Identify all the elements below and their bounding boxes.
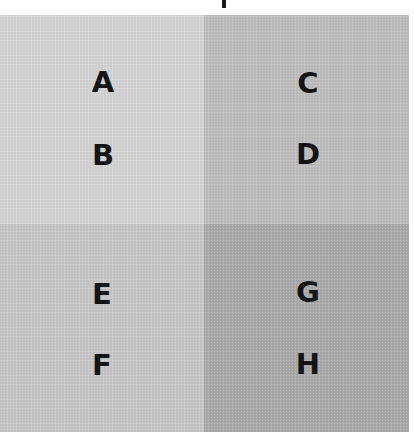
quadrant-grid: A B C D E F G H	[0, 15, 409, 432]
label-d: D	[288, 139, 328, 169]
label-h: H	[288, 349, 328, 379]
label-c: C	[288, 68, 328, 98]
label-b: B	[83, 140, 123, 170]
label-e: E	[82, 279, 122, 309]
quadrant-bottom-right: G H	[204, 224, 409, 432]
quadrant-top-right: C D	[204, 15, 409, 224]
label-g: G	[288, 277, 328, 307]
quadrant-bottom-left: E F	[0, 224, 204, 432]
label-f: F	[82, 350, 122, 380]
label-a: A	[83, 67, 123, 97]
clipped-title-fragment	[222, 0, 226, 8]
quadrant-top-left: A B	[0, 15, 204, 224]
